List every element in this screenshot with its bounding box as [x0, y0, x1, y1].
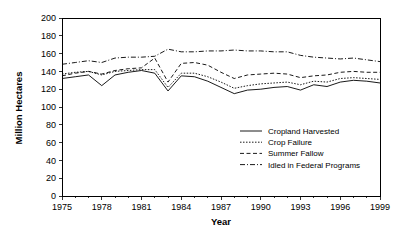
y-tick-label: 20 [46, 173, 56, 183]
x-tick-label: 1987 [211, 202, 231, 212]
x-tick-label: 1981 [131, 202, 151, 212]
legend-label-2: Summer Fallow [268, 149, 324, 158]
x-tick-label: 1996 [330, 202, 350, 212]
x-tick-label: 1990 [251, 202, 271, 212]
y-axis-title: Million Hectares [13, 72, 24, 145]
y-tick-label: 80 [46, 120, 56, 130]
y-tick-label: 160 [41, 49, 56, 59]
x-tick-label: 1978 [92, 202, 112, 212]
y-tick-label: 120 [41, 84, 56, 94]
line-chart: 020406080100120140160180200 197519781981… [0, 0, 410, 234]
y-tick-label: 0 [51, 191, 56, 201]
y-tick-label: 60 [46, 138, 56, 148]
y-tick-label: 100 [41, 102, 56, 112]
y-tick-label: 200 [41, 13, 56, 23]
x-tick-label: 1993 [290, 202, 310, 212]
x-tick-label: 1975 [52, 202, 72, 212]
legend-label-0: Cropland Harvested [268, 127, 339, 136]
y-tick-label: 140 [41, 67, 56, 77]
legend-label-3: Idled in Federal Programs [268, 161, 360, 170]
x-tick-label: 1984 [171, 202, 191, 212]
legend-label-1: Crop Failure [268, 138, 313, 147]
x-axis-title: Year [211, 216, 231, 227]
y-tick-label: 40 [46, 156, 56, 166]
x-tick-label: 1999 [370, 202, 390, 212]
chart-figure: 020406080100120140160180200 197519781981… [0, 0, 410, 234]
y-tick-label: 180 [41, 31, 56, 41]
x-axis-tick-labels: 197519781981198419871990199319961999 [52, 202, 390, 212]
